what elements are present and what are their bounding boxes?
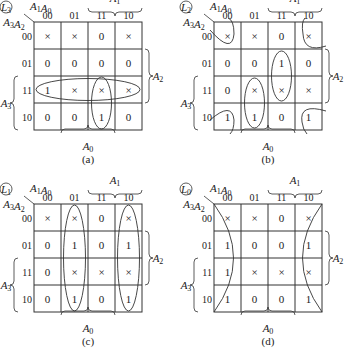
kmap-cell: × [125, 266, 131, 278]
kmap-cell: 1 [99, 111, 105, 123]
kmap-cell: 0 [99, 239, 105, 251]
kmap-cell: 1 [126, 293, 132, 305]
kmap-cell: 0 [306, 57, 312, 69]
output-label: L0 [180, 183, 191, 197]
kmap-cell: 0 [279, 293, 285, 305]
col-header: 00 [223, 192, 233, 203]
karnaugh-maps-figure: L3A1A0A3A20001111000011110××0×00001×××00… [0, 0, 347, 358]
kmap-cell: × [125, 84, 131, 96]
kmap-cell: 0 [99, 30, 105, 42]
brace-label-bottom: A0 [82, 140, 94, 154]
kmap-cell: × [305, 212, 311, 224]
kmap-cell: 0 [252, 239, 258, 251]
row-header: 11 [202, 267, 212, 278]
row-header: 01 [22, 58, 32, 69]
row-header: 00 [202, 31, 212, 42]
brace-label-left: A3 [0, 279, 11, 293]
kmap-cell: 1 [72, 293, 78, 305]
kmap-cell: 1 [225, 293, 231, 305]
kmap-cell: 0 [45, 293, 51, 305]
row-header: 01 [22, 240, 32, 251]
kmap-cell: 0 [45, 239, 51, 251]
row-header: 01 [202, 240, 212, 251]
col-header: 01 [70, 10, 80, 21]
row-header: 10 [22, 294, 32, 305]
output-label: L1 [0, 183, 11, 197]
kmap-cell: 1 [225, 111, 231, 123]
col-header: 01 [70, 192, 80, 203]
output-label: L3 [0, 1, 11, 15]
kmap-cell: 0 [72, 111, 78, 123]
brace-label-bottom: A0 [262, 140, 274, 154]
kmap-cell: × [251, 212, 257, 224]
kmap-cell: × [98, 84, 104, 96]
kmap-cell: 1 [306, 111, 312, 123]
kmap-cell: 1 [306, 239, 312, 251]
kmap-cell: 0 [279, 239, 285, 251]
kmap-cell: 1 [126, 239, 132, 251]
kmap-cell: 0 [225, 84, 231, 96]
kmap-cell: × [224, 212, 230, 224]
kmap-cell: 1 [225, 239, 231, 251]
kmap-cell: × [71, 84, 77, 96]
col-header: 01 [250, 10, 260, 21]
kmap-cell: × [278, 266, 284, 278]
kmap-cell: 1 [225, 266, 231, 278]
corner-diagonal [204, 14, 214, 22]
kmap-cell: × [251, 84, 257, 96]
kmap-cell: 0 [225, 57, 231, 69]
kmap-cell: × [224, 30, 230, 42]
kmap-cell: 0 [99, 57, 105, 69]
row-header: 00 [22, 31, 32, 42]
kmap-cell: × [44, 30, 50, 42]
kmap-cell: 0 [279, 212, 285, 224]
kmap-cell: 0 [99, 293, 105, 305]
row-header: 11 [22, 85, 32, 96]
row-header: 10 [22, 112, 32, 123]
brace-label-top: A1 [109, 0, 121, 6]
kmap-cell: 0 [252, 293, 258, 305]
col-header: 00 [223, 10, 233, 21]
brace-label-right: A2 [152, 252, 164, 266]
kmap-cell: 0 [99, 212, 105, 224]
col-header: 01 [250, 192, 260, 203]
brace-label-bottom: A0 [82, 322, 94, 336]
brace-label-left: A3 [180, 97, 192, 111]
kmap-cell: × [44, 212, 50, 224]
brace-label-bottom: A0 [262, 322, 274, 336]
map-caption: (a) [82, 153, 95, 166]
kmap-d: L0A1A0A3A20001111000011110××0×10011×××10… [180, 174, 344, 348]
map-caption: (b) [262, 153, 275, 166]
kmap-cell: × [305, 266, 311, 278]
brace-label-left: A3 [0, 97, 11, 111]
kmap-cell: 1 [306, 293, 312, 305]
row-header: 00 [202, 213, 212, 224]
kmap-b: L2A1A0A3A20001111000011110××0×00100×××11… [180, 0, 344, 166]
kmap-cell: 1 [279, 57, 285, 69]
kmap-cell: × [305, 84, 311, 96]
brace-label-left: A3 [180, 279, 192, 293]
kmap-cell: × [98, 266, 104, 278]
kmap-cell: 0 [45, 111, 51, 123]
brace-label-top: A1 [289, 0, 301, 6]
col-header: 00 [43, 192, 53, 203]
row-header: 10 [202, 112, 212, 123]
kmap-a: L3A1A0A3A20001111000011110××0×00001×××00… [0, 0, 163, 166]
row-header: 11 [22, 267, 32, 278]
corner-diagonal [24, 196, 34, 204]
brace-label-top: A1 [109, 174, 121, 188]
brace-label-right: A2 [152, 70, 164, 84]
row-header: 11 [202, 85, 212, 96]
kmap-cell: 0 [126, 111, 132, 123]
corner-diagonal [204, 196, 214, 204]
row-header: 01 [202, 58, 212, 69]
col-header: 00 [43, 10, 53, 21]
kmap-cell: 0 [72, 57, 78, 69]
row-header: 00 [22, 213, 32, 224]
kmap-cell: 0 [45, 266, 51, 278]
kmap-cell: × [278, 84, 284, 96]
kmap-cell: 0 [126, 57, 132, 69]
kmap-cell: 1 [72, 239, 78, 251]
output-label: L2 [180, 1, 191, 15]
kmap-cell: × [251, 30, 257, 42]
